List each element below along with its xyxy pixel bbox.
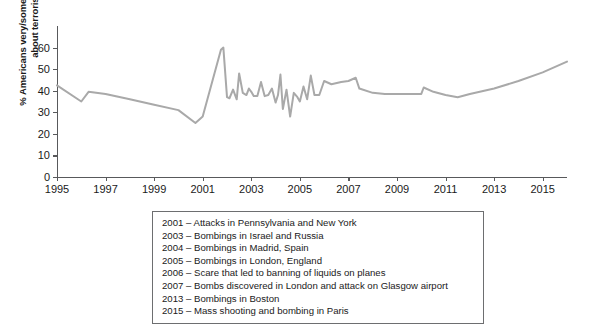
y-tick-label: 60 xyxy=(38,43,50,54)
annotation-legend-box: 2001 – Attacks in Pennsylvania and New Y… xyxy=(152,211,484,324)
legend-annotation-item: 2005 – Bombings in London, England xyxy=(162,255,483,268)
legend-annotation-item: 2003 – Bombings in Israel and Russia xyxy=(162,230,483,243)
y-tick-label: 0 xyxy=(44,172,50,183)
x-tick-label: 1999 xyxy=(142,184,166,195)
x-tick-label: 2005 xyxy=(288,184,312,195)
x-tick-label: 1997 xyxy=(93,184,117,195)
x-tick-label: 2003 xyxy=(239,184,263,195)
legend-annotation-item: 2006 – Scare that led to banning of liqu… xyxy=(162,267,483,280)
x-tick-label: 2001 xyxy=(190,184,214,195)
x-axis-line xyxy=(57,177,567,178)
legend-annotation-item: 2004 – Bombings in Madrid, Spain xyxy=(162,242,483,255)
x-tick-mark xyxy=(300,177,301,181)
x-tick-mark xyxy=(251,177,252,181)
legend-annotation-item: 2013 – Bombings in Boston xyxy=(162,293,483,306)
x-tick-mark xyxy=(446,177,447,181)
x-tick-mark xyxy=(106,177,107,181)
x-tick-mark xyxy=(203,177,204,181)
data-series-line xyxy=(57,26,567,177)
legend-annotation-item: 2015 – Mass shooting and bombing in Pari… xyxy=(162,305,483,318)
x-tick-label: 1995 xyxy=(45,184,69,195)
x-tick-mark xyxy=(494,177,495,181)
y-tick-label: 40 xyxy=(38,86,50,97)
x-tick-mark xyxy=(57,177,58,181)
y-tick-label: 50 xyxy=(38,64,50,75)
x-tick-label: 2015 xyxy=(530,184,554,195)
y-axis-title: % Americans very/somewhat worried about … xyxy=(17,0,40,120)
terrorism-worry-chart: % Americans very/somewhat worried about … xyxy=(0,0,592,325)
x-tick-label: 2007 xyxy=(336,184,360,195)
y-tick-label: 20 xyxy=(38,129,50,140)
legend-annotation-item: 2001 – Attacks in Pennsylvania and New Y… xyxy=(162,217,483,230)
x-tick-label: 2009 xyxy=(385,184,409,195)
plot-area: 0102030405060 19951997199920012003200520… xyxy=(57,26,567,177)
x-tick-label: 2013 xyxy=(482,184,506,195)
x-tick-mark xyxy=(397,177,398,181)
y-tick-label: 10 xyxy=(38,150,50,161)
y-tick-label: 30 xyxy=(38,107,50,118)
x-tick-mark xyxy=(348,177,349,181)
x-tick-label: 2011 xyxy=(434,184,458,195)
x-tick-mark xyxy=(543,177,544,181)
legend-annotation-item: 2007 – Bombs discovered in London and at… xyxy=(162,280,483,293)
x-tick-mark xyxy=(154,177,155,181)
